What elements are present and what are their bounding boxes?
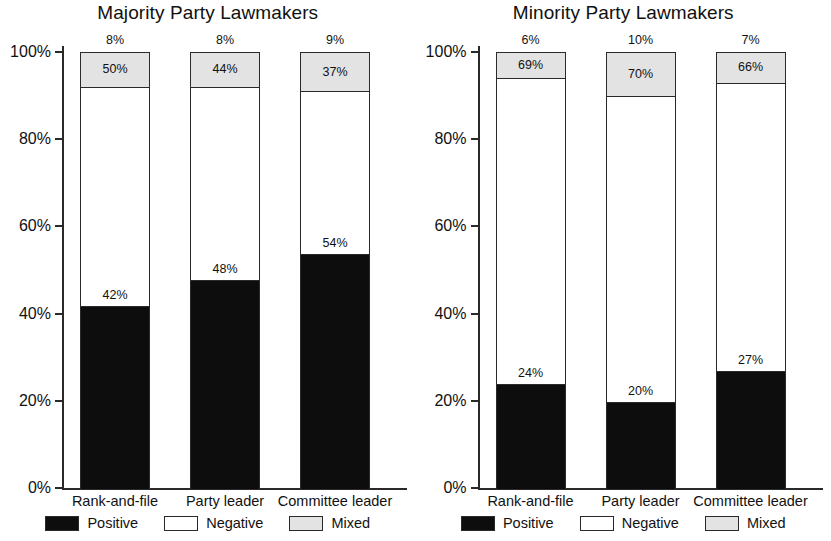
legend-item[interactable]: Positive xyxy=(45,516,138,531)
legend-item[interactable]: Positive xyxy=(461,516,554,531)
y-axis-tick xyxy=(471,400,478,402)
legend-swatch-negative-icon xyxy=(580,516,614,531)
plot-area-minority: 100%80%60%40%20%0%6%69%24%Rank-and-file1… xyxy=(416,0,831,541)
bar-segment-positive[interactable] xyxy=(191,280,259,489)
legend-swatch-mixed-icon xyxy=(289,516,323,531)
bar-label-positive: 42% xyxy=(80,289,150,302)
x-axis-category-label: Rank-and-file xyxy=(56,493,174,510)
bar-segment-positive[interactable] xyxy=(607,402,675,489)
legend-label: Positive xyxy=(503,516,554,531)
bar-label-mixed-above: 8% xyxy=(190,34,260,47)
chart-legend: PositiveNegativeMixed xyxy=(416,516,831,531)
y-axis-tick xyxy=(55,225,62,227)
stacked-bar[interactable] xyxy=(606,52,676,488)
bar-label-negative-inside: 66% xyxy=(716,61,786,74)
bar-segment-positive[interactable] xyxy=(717,371,785,489)
legend-label: Mixed xyxy=(331,516,370,531)
legend-item[interactable]: Negative xyxy=(580,516,679,531)
bar-label-negative-inside: 70% xyxy=(606,68,676,81)
bar-segment-positive[interactable] xyxy=(81,306,149,489)
bar-segment-negative[interactable] xyxy=(81,88,149,306)
y-axis-tick-label: 80% xyxy=(416,131,467,147)
y-axis-tick-label: 20% xyxy=(0,393,51,409)
bar-segment-negative[interactable] xyxy=(497,79,565,384)
stacked-bar[interactable] xyxy=(300,52,370,488)
bar-segment-negative[interactable] xyxy=(607,97,675,402)
stacked-bar[interactable] xyxy=(716,52,786,488)
y-axis-tick xyxy=(471,51,478,53)
y-axis-tick xyxy=(471,225,478,227)
y-axis-tick xyxy=(55,51,62,53)
y-axis-tick-label: 0% xyxy=(0,480,51,496)
y-axis-tick-label: 60% xyxy=(416,218,467,234)
legend-item[interactable]: Mixed xyxy=(289,516,370,531)
bar-label-positive: 20% xyxy=(606,385,676,398)
stacked-bar[interactable] xyxy=(80,52,150,488)
bar-segment-positive[interactable] xyxy=(497,384,565,489)
bar-segment-negative[interactable] xyxy=(301,92,369,253)
y-axis-tick xyxy=(55,138,62,140)
x-axis-category-label: Rank-and-file xyxy=(472,493,590,510)
legend-item[interactable]: Negative xyxy=(164,516,263,531)
chart-legend: PositiveNegativeMixed xyxy=(0,516,416,531)
bar-segment-positive[interactable] xyxy=(301,254,369,489)
bar-segment-negative[interactable] xyxy=(191,88,259,280)
x-axis-category-label: Party leader xyxy=(166,493,284,510)
bar-label-negative-inside: 69% xyxy=(496,59,566,72)
y-axis-tick-label: 100% xyxy=(416,44,467,60)
y-axis-line xyxy=(478,46,480,489)
y-axis-tick xyxy=(55,313,62,315)
legend-swatch-positive-icon xyxy=(461,516,495,531)
y-axis-tick xyxy=(471,138,478,140)
bar-label-mixed-above: 10% xyxy=(606,34,676,47)
x-axis-category-label: Committee leader xyxy=(692,493,810,510)
y-axis-tick xyxy=(471,313,478,315)
bar-label-positive: 48% xyxy=(190,263,260,276)
y-axis-tick xyxy=(55,400,62,402)
panel-minority: Minority Party Lawmakers 100%80%60%40%20… xyxy=(416,0,831,541)
bar-label-negative-inside: 37% xyxy=(300,66,370,79)
y-axis-tick-label: 20% xyxy=(416,393,467,409)
bar-label-negative-inside: 44% xyxy=(190,63,260,76)
y-axis-tick xyxy=(55,487,62,489)
legend-item[interactable]: Mixed xyxy=(705,516,786,531)
bar-label-mixed-above: 7% xyxy=(716,34,786,47)
y-axis-tick xyxy=(471,487,478,489)
legend-swatch-negative-icon xyxy=(164,516,198,531)
y-axis-tick-label: 40% xyxy=(0,306,51,322)
legend-label: Positive xyxy=(87,516,138,531)
bar-label-positive: 24% xyxy=(496,367,566,380)
x-axis-category-label: Committee leader xyxy=(276,493,394,510)
y-axis-tick-label: 40% xyxy=(416,306,467,322)
bar-label-negative-inside: 50% xyxy=(80,63,150,76)
x-axis-category-label: Party leader xyxy=(582,493,700,510)
bar-segment-negative[interactable] xyxy=(717,84,785,372)
legend-label: Negative xyxy=(206,516,263,531)
y-axis-tick-label: 60% xyxy=(0,218,51,234)
bar-label-mixed-above: 6% xyxy=(496,34,566,47)
y-axis-tick-label: 80% xyxy=(0,131,51,147)
plot-area-majority: 100%80%60%40%20%0%8%50%42%Rank-and-file8… xyxy=(0,0,416,541)
legend-swatch-positive-icon xyxy=(45,516,79,531)
y-axis-line xyxy=(62,46,64,489)
bar-label-positive: 27% xyxy=(716,354,786,367)
bar-label-positive: 54% xyxy=(300,237,370,250)
bar-label-mixed-above: 8% xyxy=(80,34,150,47)
panel-majority: Majority Party Lawmakers 100%80%60%40%20… xyxy=(0,0,416,541)
stacked-bar-chart-figure: Majority Party Lawmakers 100%80%60%40%20… xyxy=(0,0,831,541)
y-axis-tick-label: 100% xyxy=(0,44,51,60)
stacked-bar[interactable] xyxy=(496,52,566,488)
legend-label: Mixed xyxy=(747,516,786,531)
legend-swatch-mixed-icon xyxy=(705,516,739,531)
bar-label-mixed-above: 9% xyxy=(300,34,370,47)
legend-label: Negative xyxy=(622,516,679,531)
y-axis-tick-label: 0% xyxy=(416,480,467,496)
